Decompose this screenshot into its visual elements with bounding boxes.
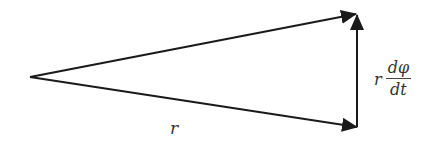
rate-coefficient: r	[374, 70, 382, 89]
fraction-denominator: dt	[390, 79, 407, 98]
derivative-fraction: dφ dt	[386, 60, 411, 98]
lower-vector-arrow	[30, 77, 357, 127]
radius-label: r	[170, 118, 178, 138]
upper-vector-arrow	[30, 14, 356, 77]
fraction-numerator: dφ	[386, 60, 411, 79]
vector-triangle-diagram	[0, 0, 431, 146]
tangential-velocity-label: r dφ dt	[374, 60, 411, 98]
